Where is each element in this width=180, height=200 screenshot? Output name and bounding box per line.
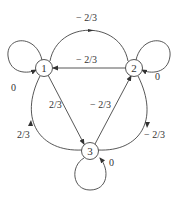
node-1: 1	[36, 60, 53, 77]
edge-label-3-3: 0	[109, 157, 114, 168]
edge-label-2-1: − 2/3	[76, 54, 97, 65]
edge-label-1-2: − 2/3	[76, 12, 97, 23]
edge-label-1-3: 2/3	[49, 99, 62, 110]
edge-2-3: − 2/3	[98, 76, 165, 150]
edge-2-1: − 2/3	[53, 54, 126, 68]
edge-label-3-1: 2/3	[17, 129, 30, 140]
node-2-label: 2	[131, 62, 137, 74]
graph-diagram: 0 0 0 − 2/3 − 2/3 2/3 − 2/3 2/3 −	[0, 0, 180, 200]
node-3: 3	[82, 143, 99, 160]
edge-3-3: 0	[75, 157, 114, 190]
edge-label-1-1: 0	[11, 82, 16, 93]
node-3-label: 3	[87, 145, 93, 157]
node-1-label: 1	[41, 62, 47, 74]
node-2: 2	[126, 60, 143, 77]
edge-3-1: 2/3	[17, 76, 82, 150]
edge-3-2: − 2/3	[90, 76, 131, 144]
edge-label-2-2: 0	[155, 71, 160, 82]
edge-label-2-3: − 2/3	[144, 129, 165, 140]
edge-1-3: 2/3	[48, 75, 84, 144]
edge-2-2: 0	[136, 41, 170, 82]
edge-label-3-2: − 2/3	[90, 99, 111, 110]
